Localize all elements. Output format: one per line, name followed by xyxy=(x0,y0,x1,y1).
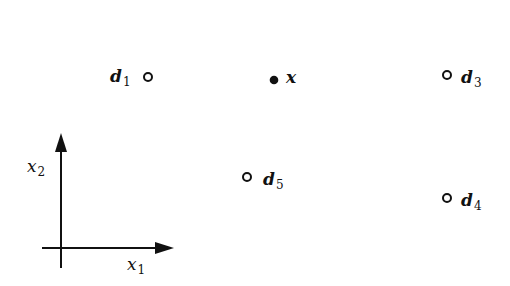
point-d4-label-sub: 4 xyxy=(474,199,482,213)
point-d3-label-sub: 3 xyxy=(474,76,482,90)
point-d4-label-name: d xyxy=(461,190,473,210)
x2-axis-arrowhead-icon xyxy=(55,133,67,152)
coordinate-axes xyxy=(42,133,174,268)
point-d3-label: d3 xyxy=(461,69,482,86)
point-d1-label-name: d xyxy=(110,66,122,86)
x2-axis-label: x2 xyxy=(27,158,45,175)
point-x-label: x xyxy=(286,69,296,86)
point-d5-label-name: d xyxy=(263,169,275,189)
point-d1-label: d1 xyxy=(110,68,131,85)
point-d5-label: d5 xyxy=(263,171,284,188)
point-x-label-name: x xyxy=(286,67,296,87)
diagram-canvas xyxy=(0,0,510,286)
point-d4-label: d4 xyxy=(461,192,482,209)
point-d1-marker xyxy=(144,73,152,81)
point-d3-label-name: d xyxy=(461,67,473,87)
x2-axis-label-sub: 2 xyxy=(38,165,46,179)
point-d1-label-sub: 1 xyxy=(123,75,131,89)
point-d5-label-sub: 5 xyxy=(276,178,284,192)
point-d3-marker xyxy=(443,71,451,79)
x1-axis-label: x1 xyxy=(127,256,145,273)
x2-axis-label-name: x xyxy=(27,156,37,176)
x1-axis-arrowhead-icon xyxy=(155,242,174,254)
point-d5-marker xyxy=(243,173,251,181)
x1-axis-label-name: x xyxy=(127,254,137,274)
point-x-marker xyxy=(270,76,279,85)
point-d4-marker xyxy=(443,194,451,202)
x1-axis-label-sub: 1 xyxy=(138,263,146,277)
